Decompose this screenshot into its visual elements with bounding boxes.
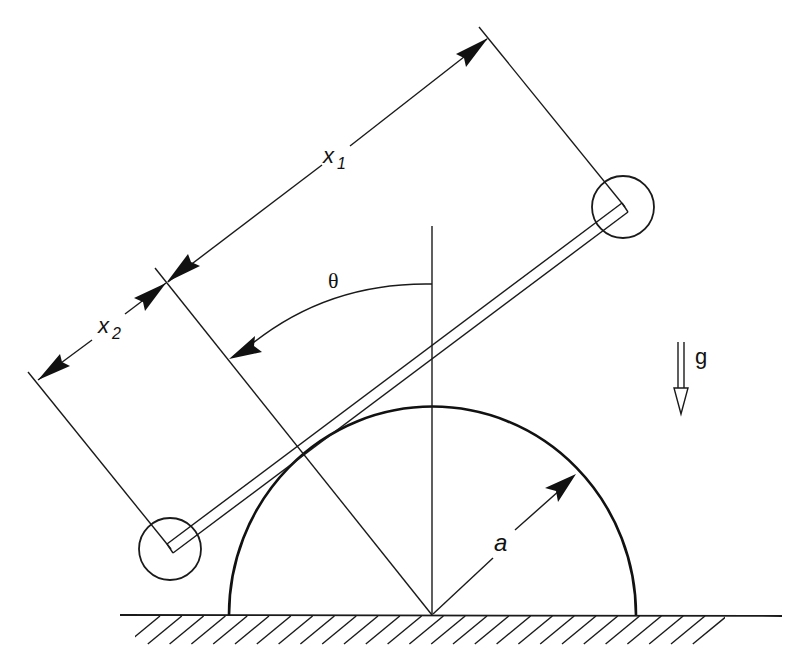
hatch-line — [279, 616, 313, 644]
hatch-line — [518, 616, 552, 644]
lower-extension-line — [28, 372, 171, 549]
x1-arrowhead-upper — [456, 38, 488, 67]
hatch-line — [126, 616, 160, 644]
gravity-label: g — [695, 344, 707, 369]
hatch-line — [235, 616, 269, 644]
hatch-line — [213, 616, 247, 644]
x2-label: x2 — [97, 313, 121, 342]
ground — [120, 615, 782, 644]
upper-mass — [592, 176, 654, 238]
hatch-line — [475, 616, 509, 644]
radius-label: a — [494, 529, 507, 556]
hatch-line — [257, 616, 291, 644]
dimension-x2: x2 — [38, 283, 166, 380]
hatch-line — [409, 616, 443, 644]
x2-arrowhead-lower — [38, 354, 70, 380]
diagram-canvas: x1 x2 θ a g — [0, 0, 804, 669]
upper-extension-line — [479, 27, 625, 207]
radius-arrowhead — [545, 474, 576, 502]
normal-line — [155, 268, 432, 615]
hatch-line — [453, 616, 487, 644]
dimension-x1: x1 — [167, 38, 488, 282]
hatch-line — [191, 616, 225, 644]
hatch-line — [562, 616, 596, 644]
hatch-line — [649, 616, 683, 644]
x1-label: x1 — [322, 143, 346, 172]
x2-arrowhead-upper — [134, 283, 166, 311]
theta-label: θ — [328, 268, 339, 293]
x1-arrowhead-lower — [167, 254, 200, 282]
hatch-line — [606, 616, 640, 644]
hatch-line — [388, 616, 422, 644]
hatch-line — [540, 616, 574, 644]
ground-line — [120, 615, 782, 616]
hatch-line — [366, 616, 400, 644]
hatch-line — [584, 616, 618, 644]
radius-a: a — [433, 474, 576, 614]
ground-hatching — [126, 616, 727, 644]
hatch-line — [627, 616, 661, 644]
hatch-line — [671, 616, 705, 644]
hatch-line — [148, 616, 182, 644]
gravity-indicator: g — [674, 342, 707, 414]
hatch-line — [170, 616, 204, 644]
hatch-line — [300, 616, 334, 644]
hatch-line — [322, 616, 356, 644]
gravity-arrowhead — [674, 388, 688, 414]
hatch-line — [497, 616, 531, 644]
hatch-line — [344, 616, 378, 644]
theta-angle: θ — [229, 268, 432, 359]
hatch-line — [693, 616, 727, 644]
hatch-line — [431, 616, 465, 644]
